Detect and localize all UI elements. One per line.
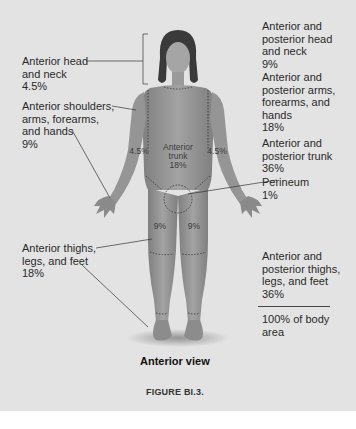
body-label-right-arm: 4.5% xyxy=(205,147,229,156)
label-ant-post-trunk: Anterior and posterior trunk 36% xyxy=(262,137,332,175)
body-label-trunk: Anterior trunk 18% xyxy=(156,143,200,170)
label-ant-post-head-neck: Anterior and posterior head and neck 9% xyxy=(262,20,332,70)
neck xyxy=(172,72,184,86)
view-caption: Anterior view xyxy=(140,355,210,367)
left-foot xyxy=(153,320,172,341)
label-anterior-thighs-legs: Anterior thighs, legs, and feet 18% xyxy=(22,242,96,280)
torso xyxy=(142,85,214,190)
label-perineum: Perineum 1% xyxy=(262,176,309,201)
floor-shadow xyxy=(126,329,230,347)
figure-number: FIGURE BI.3. xyxy=(146,387,204,397)
total-divider xyxy=(258,306,330,307)
head xyxy=(166,42,190,74)
right-foot xyxy=(184,320,203,341)
label-ant-post-thighs-legs: Anterior and posterior thighs, legs, and… xyxy=(262,250,340,300)
label-total-body-area: 100% of body area xyxy=(262,313,329,338)
body-label-left-arm: 4.5% xyxy=(127,147,151,156)
label-ant-post-arms: Anterior and posterior arms, forearms, a… xyxy=(262,71,335,134)
body-label-left-thigh: 9% xyxy=(150,222,170,231)
body-label-right-thigh: 9% xyxy=(184,222,204,231)
right-leg xyxy=(178,188,208,322)
label-anterior-shoulders-arms: Anterior shoulders, arms, forearms, and … xyxy=(22,100,114,150)
label-anterior-head-neck: Anterior head and neck 4.5% xyxy=(22,55,88,93)
